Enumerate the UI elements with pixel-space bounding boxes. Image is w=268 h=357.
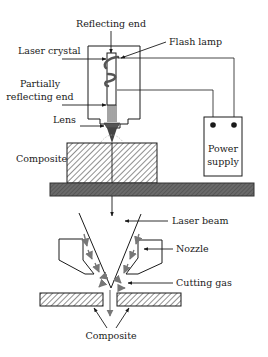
- laser-head: [88, 46, 140, 143]
- laser-cutting-diagram: Power supply: [0, 0, 268, 357]
- label-laser-crystal: Laser crystal: [18, 45, 81, 56]
- label-reflecting-end-partial: reflecting end: [6, 91, 73, 102]
- label-lens: Lens: [53, 114, 76, 125]
- terminal-icon: [231, 122, 237, 128]
- label-partially: Partially: [20, 78, 61, 89]
- label-composite-top: Composite: [16, 153, 68, 164]
- nozzle-left: [59, 239, 94, 274]
- power-supply-label: supply: [207, 156, 239, 167]
- power-supply: Power supply: [204, 117, 242, 176]
- terminal-icon: [210, 122, 216, 128]
- lens: [104, 123, 120, 128]
- base-plate: [50, 183, 254, 196]
- label-composite-bottom: Composite: [85, 330, 137, 341]
- composite-plate-left: [40, 293, 103, 306]
- power-wires: [117, 58, 234, 124]
- nozzle-detail: [40, 213, 181, 316]
- label-cutting-gas: Cutting gas: [176, 277, 232, 288]
- label-flash-lamp: Flash lamp: [169, 36, 222, 47]
- label-laser-beam: Laser beam: [172, 215, 228, 226]
- power-supply-label: Power: [208, 143, 238, 154]
- label-nozzle: Nozzle: [176, 243, 209, 254]
- label-reflecting-end: Reflecting end: [76, 18, 146, 29]
- composite-plate-right: [117, 293, 181, 306]
